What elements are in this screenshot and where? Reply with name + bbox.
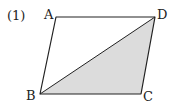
problem-number-label: (1) [7, 8, 25, 23]
vertex-label-a: A [43, 7, 54, 22]
vertex-label-b: B [26, 88, 36, 103]
parallelogram-figure: (1) A D B C [0, 0, 179, 105]
vertex-label-d: D [157, 7, 167, 22]
vertex-label-c: C [143, 89, 153, 104]
